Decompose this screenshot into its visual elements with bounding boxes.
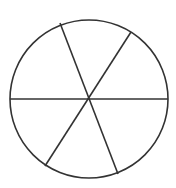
divided-circle-diagram — [0, 0, 176, 188]
